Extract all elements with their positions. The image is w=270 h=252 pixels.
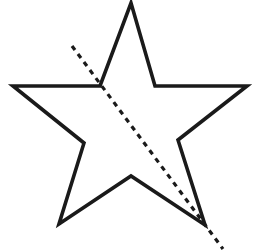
star-diagram-svg [0, 0, 270, 252]
canvas-background [0, 0, 270, 252]
figure-canvas [0, 0, 270, 252]
